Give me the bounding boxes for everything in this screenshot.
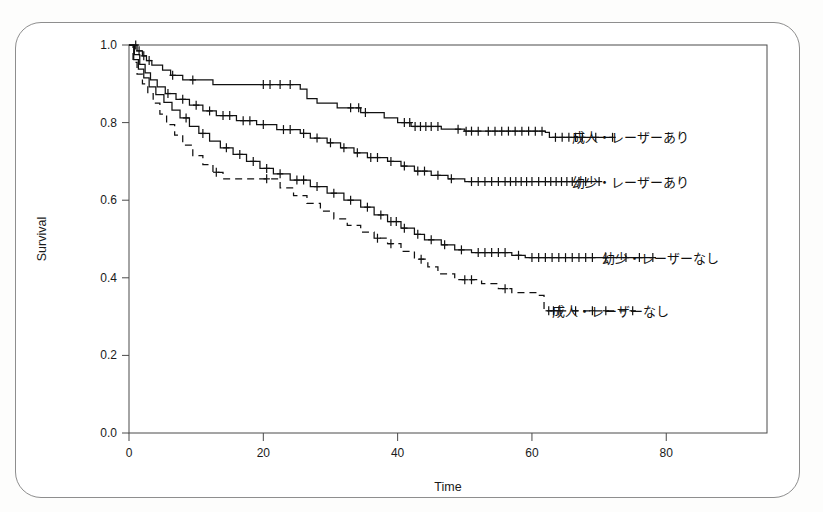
plot-frame-rect [129, 45, 767, 433]
x-tick-label: 20 [257, 446, 271, 460]
y-tick-label: 0.8 [100, 116, 117, 130]
x-tick-label: 0 [126, 446, 133, 460]
y-tick-label: 0.6 [100, 193, 117, 207]
y-axis-title: Survival [35, 217, 49, 261]
screenshot-page: 0.00.20.40.60.81.0 020406080 Survival Ti… [0, 0, 823, 512]
figure-card: 0.00.20.40.60.81.0 020406080 Survival Ti… [15, 22, 800, 498]
x-axis-title: Time [434, 480, 461, 494]
survival-step-line [129, 45, 613, 137]
faint-page-header [0, 0, 823, 11]
x-tick-label: 80 [660, 446, 674, 460]
legend-label-3: 成人・レーザーなし [552, 304, 669, 319]
survival-step-line [129, 45, 599, 182]
y-axis-ticks: 0.00.20.40.60.81.0 [100, 38, 129, 440]
y-tick-label: 0.2 [100, 348, 117, 362]
x-tick-label: 40 [391, 446, 405, 460]
curve-legend: 成人・レーザーあり幼少・レーザーあり幼少・レーザーなし成人・レーザーなし [552, 130, 719, 318]
legend-label-1: 幼少・レーザーあり [572, 175, 689, 190]
survival-plot: 0.00.20.40.60.81.0 020406080 Survival Ti… [16, 23, 801, 499]
x-tick-label: 60 [525, 446, 539, 460]
legend-label-0: 成人・レーザーあり [572, 130, 689, 145]
legend-label-2: 幼少・レーザーなし [602, 251, 719, 266]
survival-step-line [129, 45, 633, 311]
y-tick-label: 1.0 [100, 38, 117, 52]
x-axis-ticks: 020406080 [126, 433, 674, 460]
plot-frame [129, 45, 767, 433]
y-tick-label: 0.0 [100, 426, 117, 440]
y-tick-label: 0.4 [100, 271, 117, 285]
